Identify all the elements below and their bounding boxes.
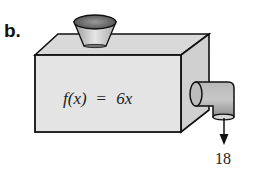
function-rule: f(x) = 6x (63, 89, 133, 108)
function-expression: 6x (116, 89, 133, 108)
function-name: f(x) (63, 89, 87, 108)
part-label: b. (4, 20, 21, 41)
equals-sign: = (97, 89, 107, 108)
output-arrow-icon (220, 118, 229, 145)
function-machine-diagram: b. f(x) = 6x 18 (0, 0, 259, 181)
output-value: 18 (215, 150, 231, 167)
box-top-face (35, 34, 209, 55)
